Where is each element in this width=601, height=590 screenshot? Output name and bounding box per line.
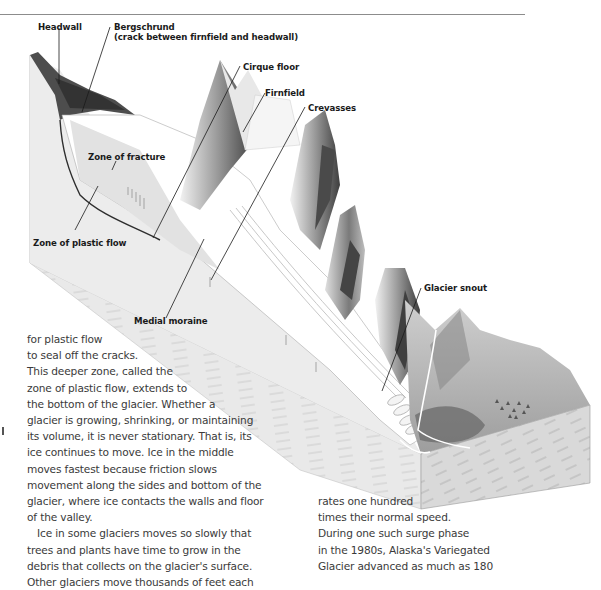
text-line: glacier is growing, shrinking, or mainta… [27, 412, 264, 428]
label-zone-of-plastic-flow: Zone of plastic flow [33, 238, 126, 248]
label-headwall: Headwall [38, 22, 82, 32]
text-line: During one such surge phase [318, 525, 493, 541]
label-medial-moraine: Medial moraine [134, 316, 208, 326]
body-column-right: rates one hundred times their normal spe… [318, 493, 493, 574]
label-zone-of-fracture: Zone of fracture [88, 152, 165, 162]
label-glacier-snout: Glacier snout [424, 283, 487, 293]
body-column-left: for plastic flow to seal off the cracks.… [27, 331, 264, 590]
text-line: zone of plastic flow, extends to [27, 380, 264, 396]
text-line: in the 1980s, Alaska's Variegated [318, 542, 493, 558]
text-line: rates one hundred [318, 493, 493, 509]
text-line: ice continues to move. Ice in the middle [27, 444, 264, 460]
text-line: debris that collects on the glacier's su… [27, 558, 264, 574]
label-bergschrund: Bergschrund [114, 22, 175, 32]
text-line: the bottom of the glacier. Whether a [27, 396, 264, 412]
paragraph-start-line: Ice in some glaciers moves so slowly tha… [27, 525, 264, 541]
text-line: Glacier advanced as much as 180 [318, 558, 493, 574]
text-line: glacier, where ice contacts the walls an… [27, 493, 264, 509]
label-cirque-floor: Cirque floor [243, 62, 299, 72]
label-firnfield: Firnfield [265, 88, 305, 98]
text-line: trees and plants have time to grow in th… [27, 542, 264, 558]
text-line: Other glaciers move thousands of feet ea… [27, 574, 264, 590]
text-line: moves fastest because friction slows [27, 461, 264, 477]
label-crevasses: Crevasses [308, 103, 356, 113]
text-line: times their normal speed. [318, 509, 493, 525]
text-line: This deeper zone, called the [27, 363, 264, 379]
text-line: to seal off the cracks. [27, 347, 264, 363]
text-line: for plastic flow [27, 331, 264, 347]
text-line: of the valley. [27, 509, 264, 525]
text-line: movement along the sides and bottom of t… [27, 477, 264, 493]
text-line: its volume, it is never stationary. That… [27, 428, 264, 444]
label-bergschrund-description: (crack between firnfield and headwall) [114, 32, 298, 42]
